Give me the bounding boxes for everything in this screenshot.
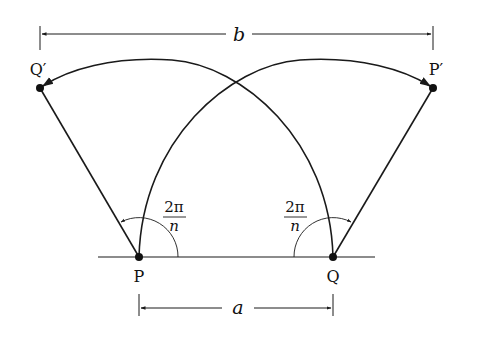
- svg-text:2π: 2π: [285, 198, 305, 216]
- point-Q-prime: [36, 84, 44, 92]
- point-Q: [329, 253, 337, 261]
- svg-text:n: n: [169, 217, 179, 235]
- arc-P-to-Pprime: [139, 59, 430, 257]
- label-Q: Q: [326, 267, 339, 286]
- segment-Q-Pprime: [333, 88, 433, 257]
- svg-text:2π: 2π: [164, 198, 184, 216]
- label-P-prime: P′: [429, 60, 444, 79]
- dimension-b: b: [40, 23, 433, 50]
- point-P: [135, 253, 143, 261]
- segment-P-Qprime: [40, 88, 139, 257]
- dimension-a: a: [139, 294, 333, 318]
- svg-text:n: n: [290, 217, 300, 235]
- label-b: b: [233, 23, 245, 45]
- label-a: a: [232, 296, 243, 318]
- rotation-diagram: b 2π n 2π n P Q Q′ P′ a: [0, 0, 478, 339]
- angle-label-right: 2π n: [284, 198, 307, 235]
- point-P-prime: [429, 84, 437, 92]
- angle-arc-right: [294, 218, 351, 257]
- label-Q-prime: Q′: [30, 60, 47, 79]
- label-P: P: [134, 267, 145, 286]
